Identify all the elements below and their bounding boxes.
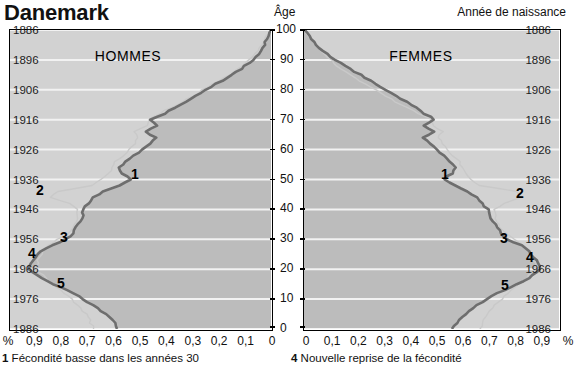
annotation-marker-women-2: 2 [516,186,524,200]
birth-year-label-1926-right: 1926 [525,144,551,156]
birth-year-label-1926-left: 1926 [13,144,39,156]
annotation-marker-men-4: 4 [28,246,36,260]
percent-label-0-2: 0,2 [206,334,232,348]
percent-label-%: % [555,334,578,348]
annotation-marker-men-5: 5 [57,276,65,290]
percent-label-0-3: 0,3 [180,334,206,348]
age-tick-40 [270,208,275,210]
footnote-right-number: 4 [291,352,297,364]
annotation-marker-women-1: 1 [441,167,449,181]
birth-year-label-1936-left: 1936 [13,174,39,186]
birth-year-label-1906-right: 1906 [525,84,551,96]
age-label-80: 80 [280,83,293,95]
age-tick-0 [270,326,275,328]
birth-year-label-1906-left: 1906 [13,84,39,96]
age-axis: 1009080706050403020100 [274,29,302,331]
annotation-marker-men-2: 2 [36,183,44,197]
birth-year-label-1886-left: 1886 [13,24,39,36]
birth-year-label-1966-left: 1966 [13,263,39,275]
percent-label-0: 0 [293,334,319,348]
birth-year-label-1896-right: 1896 [525,54,551,66]
birth-year-label-1986-right: 1986 [525,323,551,335]
percent-scale-left: %0,90,80,70,60,50,40,30,20,10 [0,333,274,351]
age-label-50: 50 [280,173,293,185]
age-tick-90 [270,59,275,61]
annotation-marker-men-1: 1 [131,167,139,181]
percent-label-0-4: 0,4 [153,334,179,348]
birth-year-label-1936-right: 1936 [525,174,551,186]
percent-scale-right: 00,10,20,30,40,50,60,70,80,9% [300,333,570,351]
footnote-left-number: 1 [2,352,8,364]
age-label-90: 90 [280,53,293,65]
percent-label-0-5: 0,5 [127,334,153,348]
age-tick-100 [270,29,275,31]
percent-label-0-8: 0,8 [503,334,529,348]
annotation-marker-men-3: 3 [60,230,68,244]
age-label-10: 10 [280,292,293,304]
age-label-0: 0 [280,322,287,334]
percent-label-0-7: 0,7 [476,334,502,348]
birth-year-label-1986-left: 1986 [13,323,39,335]
birth-year-label-1916-right: 1916 [525,114,551,126]
percent-label-0-9: 0,9 [529,334,555,348]
birth-year-label-1976-left: 1976 [13,293,39,305]
age-label-70: 70 [280,113,293,125]
percent-label-0-4: 0,4 [398,334,424,348]
age-label-100: 100 [276,23,296,35]
footnote-left-text: Fécondité basse dans les années 30 [12,352,199,364]
age-label-20: 20 [280,262,293,274]
annotation-marker-women-5: 5 [501,278,509,292]
birth-year-label-1916-left: 1916 [13,114,39,126]
chart-panel-men: HOMMES [9,29,273,331]
birth-year-axis-title: Année de naissance [457,5,566,19]
percent-label-0-5: 0,5 [424,334,450,348]
age-tick-80 [270,89,275,91]
footnote-left: 1 Fécondité basse dans les années 30 [2,352,199,365]
percent-label-0-1: 0,1 [233,334,259,348]
percent-label-0-2: 0,2 [345,334,371,348]
age-tick-60 [270,149,275,151]
birth-year-label-1896-left: 1896 [13,54,39,66]
percent-label-0-6: 0,6 [101,334,127,348]
birth-year-labels-right: 1886189619061916192619361946195619661976… [303,29,559,331]
age-tick-10 [270,298,275,300]
footnote-right: 4 Nouvelle reprise de la fécondité [291,352,462,365]
birth-year-label-1976-right: 1976 [525,293,551,305]
men-area-chart [10,30,271,329]
percent-label-0: 0 [259,334,285,348]
percent-label-0-1: 0,1 [319,334,345,348]
age-tick-70 [270,119,275,121]
age-label-40: 40 [280,202,293,214]
percent-label-0-7: 0,7 [74,334,100,348]
birth-year-label-1956-left: 1956 [13,233,39,245]
annotation-marker-women-4: 4 [526,250,534,264]
birth-year-label-1886-right: 1886 [525,24,551,36]
footnote-right-text: Nouvelle reprise de la fécondité [301,352,462,364]
age-label-60: 60 [280,143,293,155]
age-axis-title: Âge [274,5,295,19]
percent-label-%: % [0,334,21,348]
age-label-30: 30 [280,232,293,244]
age-tick-30 [270,238,275,240]
age-tick-50 [270,179,275,181]
birth-year-label-1956-right: 1956 [525,233,551,245]
percent-label-0-8: 0,8 [48,334,74,348]
percent-label-0-9: 0,9 [21,334,47,348]
birth-year-label-1946-right: 1946 [525,203,551,215]
age-tick-20 [270,268,275,270]
birth-year-label-1946-left: 1946 [13,203,39,215]
panel-title-men: HOMMES [10,48,272,64]
percent-label-0-3: 0,3 [372,334,398,348]
annotation-marker-women-3: 3 [500,231,508,245]
percent-label-0-6: 0,6 [450,334,476,348]
page-title: Danemark [4,1,109,25]
